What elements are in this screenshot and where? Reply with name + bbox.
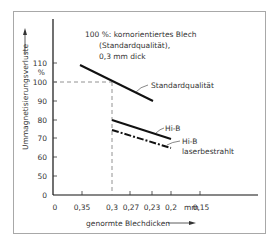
x-tick-labels: 0 0,35 0,3 0,27 0,23 0,2 mm 0,15 bbox=[53, 203, 210, 212]
x-axis-label: genormte Blechdicken bbox=[86, 219, 170, 228]
leader-lines bbox=[136, 85, 180, 145]
y-unit: % bbox=[38, 68, 45, 77]
x-tick-023: 0,23 bbox=[144, 203, 161, 212]
reference-lines bbox=[53, 82, 112, 195]
x-tick-015: 0,15 bbox=[193, 203, 210, 212]
series-standardqualitaet bbox=[80, 65, 153, 101]
annotation-line-3: 0,3 mm dick bbox=[99, 52, 146, 61]
series-hi-b-laser bbox=[112, 130, 171, 148]
x-tick-027: 0,27 bbox=[123, 203, 140, 212]
label-standardqualitaet: Standardqualität bbox=[151, 81, 214, 90]
series-hi-b bbox=[112, 120, 171, 139]
x-axis-arrow-icon bbox=[168, 221, 196, 225]
y-tick-0: 0 bbox=[42, 191, 47, 200]
y-tick-60: 60 bbox=[37, 153, 47, 162]
y-axis-label: Ummagnetisierungsverluste bbox=[21, 43, 30, 150]
annotation-line-2: (Standardqualität), bbox=[99, 41, 170, 50]
y-tick-110: 110 bbox=[33, 59, 48, 68]
y-tick-50: 50 bbox=[37, 172, 47, 181]
x-tick-03: 0,3 bbox=[106, 203, 118, 212]
y-tick-90: 90 bbox=[37, 97, 47, 106]
annotation-line-1: 100 %: kornorientiertes Blech bbox=[85, 30, 197, 39]
x-tick-035: 0,35 bbox=[74, 203, 91, 212]
y-tick-70: 70 bbox=[37, 134, 47, 143]
label-hi-b-laser-1: Hi-B bbox=[182, 137, 197, 146]
y-tick-100: 100 bbox=[33, 78, 48, 87]
y-tick-80: 80 bbox=[37, 116, 47, 125]
x-tick-02: 0,2 bbox=[165, 203, 177, 212]
chart-svg: 110 % 100 90 80 70 60 50 0 Ummagnetisier… bbox=[0, 0, 274, 247]
label-hi-b: Hi-B bbox=[165, 124, 180, 133]
y-tick-labels: 110 % 100 90 80 70 60 50 0 bbox=[33, 59, 48, 200]
x-tick-0: 0 bbox=[53, 203, 58, 212]
label-hi-b-laser-2: laserbestrahlt bbox=[182, 147, 234, 156]
annotation: 100 %: kornorientiertes Blech (Standardq… bbox=[85, 30, 197, 61]
